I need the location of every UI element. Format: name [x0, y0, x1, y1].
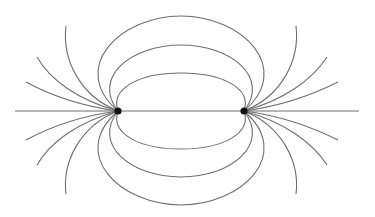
field-line-left-open-top-1: [65, 26, 118, 111]
field-line-left-open-bottom-1: [65, 111, 118, 194]
field-line-loop-bottom-middle: [110, 111, 253, 177]
field-line-loop-bottom-inner: [117, 111, 246, 149]
dipole-field-diagram: [0, 0, 375, 217]
left-charge: [114, 107, 121, 114]
right-charge: [240, 107, 247, 114]
field-line-loop-top-middle: [110, 45, 253, 111]
field-line-right-open-top-1: [244, 26, 297, 111]
field-line-right-open-bottom-1: [244, 111, 297, 194]
field-line-loop-top-inner: [117, 73, 246, 111]
